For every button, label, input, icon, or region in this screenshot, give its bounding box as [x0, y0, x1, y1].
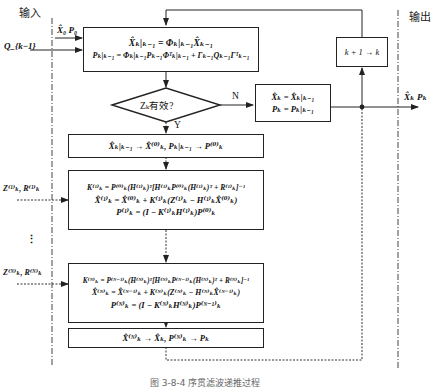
figure-caption: 图 3-8-4 序贯滤波递推过程 — [150, 376, 260, 388]
covariance-prediction-eq: Pₖ|ₖ₋₁ = Φₖ|ₖ₋₁Pₖ₋₁Φᵀₖ|ₖ₋₁ + Γₖ₋₁Qₖ₋₁Γᵀₖ… — [93, 50, 250, 62]
covariance-no-update-eq: Pₖ = Pₖ|ₖ₋₁ — [272, 103, 314, 115]
measurement-N-input: Z⁽ᴺ⁾ₖ, R⁽ᴺ⁾ₖ — [3, 267, 42, 277]
state-prediction-eq: X̂ₖ|ₖ₋₁ = Φₖ|ₖ₋₁X̂ₖ₋₁ — [129, 37, 213, 50]
measurement-1-input: Z⁽¹⁾ₖ, R⁽¹⁾ₖ — [3, 183, 40, 193]
sequence-init-box: X̂ₖ|ₖ₋₁ → X̂⁽⁰⁾ₖ, Pₖ|ₖ₋₁ → P⁽⁰⁾ₖ — [68, 134, 264, 158]
decision-yes-label: Y — [174, 120, 181, 130]
prediction-box: X̂ₖ|ₖ₋₁ = Φₖ|ₖ₋₁X̂ₖ₋₁ Pₖ|ₖ₋₁ = Φₖ|ₖ₋₁Pₖ₋… — [83, 27, 259, 72]
covariance-update-1-eq: P⁽¹⁾ₖ = (I − K⁽¹⁾ₖH⁽¹⁾ₖ)P⁽⁰⁾ₖ — [116, 206, 216, 218]
input-label: 输入 — [19, 4, 41, 20]
finalize-box: X̂⁽ᴺ⁾ₖ → X̂ₖ, P⁽ᴺ⁾ₖ → Pₖ — [68, 328, 264, 348]
update-N-box: K⁽ᴺ⁾ₖ = P⁽ᴺ⁻¹⁾ₖ(H⁽ᴺ⁾ₖ)ᵀ[H⁽ᴺ⁾ₖP⁽ᴺ⁻¹⁾ₖ(H⁽ᴺ… — [68, 263, 264, 323]
covariance-update-N-eq: P⁽ᴺ⁾ₖ = (I − K⁽ᴺ⁾ₖH⁽ᴺ⁾ₖ)P⁽ᴺ⁻¹⁾ₖ — [111, 299, 221, 311]
output-estimate: X̂ₖ Pₖ — [404, 92, 427, 102]
gain-N-eq: K⁽ᴺ⁾ₖ = P⁽ᴺ⁻¹⁾ₖ(H⁽ᴺ⁾ₖ)ᵀ[H⁽ᴺ⁾ₖP⁽ᴺ⁻¹⁾ₖ(H⁽ᴺ… — [83, 275, 250, 287]
initial-state-input: X̂₀ P₀ — [57, 25, 77, 35]
output-label: 输出 — [409, 8, 431, 24]
finalize-eq: X̂⁽ᴺ⁾ₖ → X̂ₖ, P⁽ᴺ⁾ₖ → Pₖ — [123, 332, 210, 344]
increment-k-text: k + 1 → k — [345, 46, 380, 58]
gain-1-eq: K⁽¹⁾ₖ = P⁽⁰⁾ₖ(H⁽¹⁾ₖ)ᵀ[H⁽¹⁾ₖP⁽⁰⁾ₖ(H⁽¹⁾ₖ)ᵀ… — [87, 182, 245, 194]
increment-k-box: k + 1 → k — [336, 37, 388, 67]
process-noise-input: Q_{k−1} — [4, 41, 36, 51]
decision-measurement-valid: Zₖ有效? — [140, 98, 174, 112]
no-update-box: X̂ₖ = X̂ₖ|ₖ₋₁ Pₖ = Pₖ|ₖ₋₁ — [255, 84, 331, 122]
state-update-1-eq: X̂⁽¹⁾ₖ = X̂⁽⁰⁾ₖ + K⁽¹⁾ₖ(Z⁽¹⁾ₖ − H⁽¹⁾ₖX̂⁽… — [95, 194, 237, 206]
state-update-N-eq: X̂⁽ᴺ⁾ₖ = X̂⁽ᴺ⁻¹⁾ₖ + K⁽ᴺ⁾ₖ(Z⁽ᴺ⁾ₖ − H⁽ᴺ⁾ₖX… — [92, 287, 240, 299]
state-no-update-eq: X̂ₖ = X̂ₖ|ₖ₋₁ — [271, 91, 314, 103]
ellipsis: ⋮ — [26, 233, 37, 246]
update-1-box: K⁽¹⁾ₖ = P⁽⁰⁾ₖ(H⁽¹⁾ₖ)ᵀ[H⁽¹⁾ₖP⁽⁰⁾ₖ(H⁽¹⁾ₖ)ᵀ… — [68, 170, 264, 230]
sequence-init-eq: X̂ₖ|ₖ₋₁ → X̂⁽⁰⁾ₖ, Pₖ|ₖ₋₁ → P⁽⁰⁾ₖ — [109, 140, 223, 152]
decision-no-label: N — [232, 91, 239, 101]
